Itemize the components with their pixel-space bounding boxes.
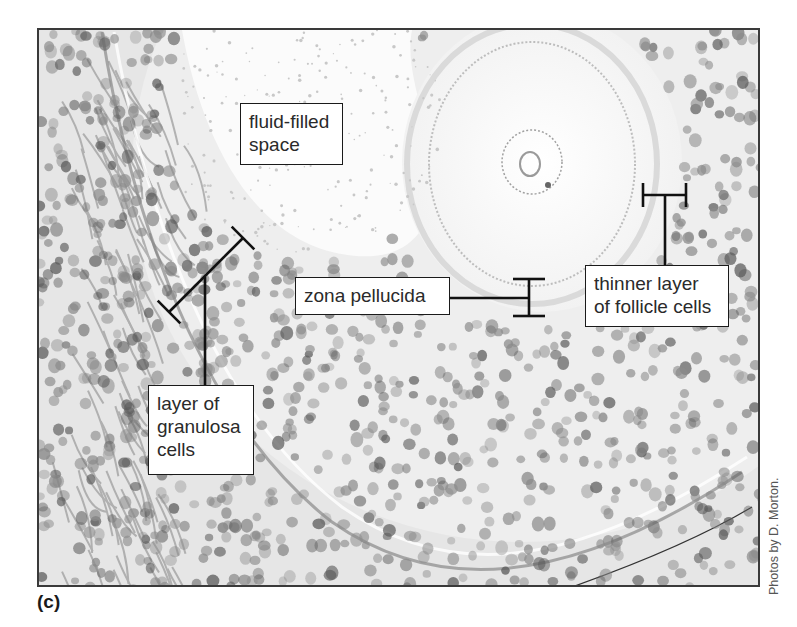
panel-letter: (c) — [37, 591, 60, 613]
label-fluid-filled-space: fluid-filled space — [240, 103, 343, 165]
figure: fluid-filled space zona pellucida thinne… — [0, 0, 797, 627]
label-granulosa-layer: layer of granulosa cells — [148, 385, 254, 475]
photo-credit: Photos by D. Morton. — [767, 478, 781, 595]
label-zona-pellucida: zona pellucida — [295, 277, 450, 315]
label-thinner-follicle-layer: thinner layer of follicle cells — [585, 265, 729, 327]
